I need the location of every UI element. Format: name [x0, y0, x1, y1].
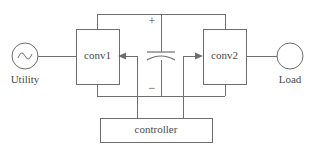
- dc-link-plus-sign: +: [146, 15, 158, 27]
- load-label: Load: [265, 74, 314, 85]
- utility-ac-source-symbol: [12, 43, 76, 69]
- dc-bus-negative-rail: [97, 60, 225, 96]
- utility-label: Utility: [0, 74, 50, 85]
- control-signal-to-conv1: [118, 53, 137, 119]
- load-circle: [277, 43, 303, 69]
- capacitor-plate-bottom-curved: [147, 56, 175, 60]
- circuit-diagram: conv1 conv2 controller Utility Load + −: [0, 0, 314, 149]
- sine-wave-icon: [18, 53, 32, 59]
- control-signal-to-conv2: [183, 53, 203, 119]
- controller-label: controller: [100, 124, 212, 135]
- conv2-control-arrowhead-icon: [195, 53, 203, 60]
- conv2-control-wire: [183, 56, 195, 118]
- dc-bus-positive-rail: [97, 14, 225, 52]
- dc-link-capacitor-icon: [147, 52, 175, 60]
- load-symbol: [246, 43, 303, 69]
- conv1-label: conv1: [76, 50, 119, 61]
- dc-link-minus-sign: −: [146, 82, 158, 94]
- conv1-control-wire: [126, 56, 137, 118]
- conv2-label: conv2: [203, 50, 246, 61]
